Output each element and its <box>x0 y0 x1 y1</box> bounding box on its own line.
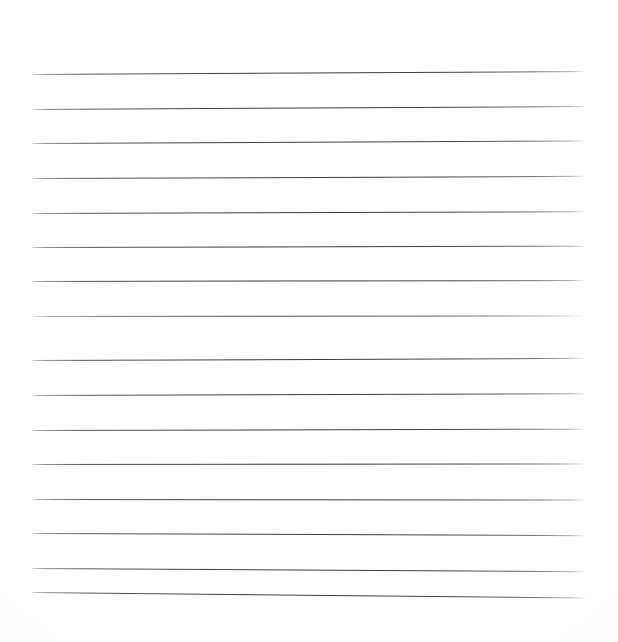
rule-line-ink <box>31 463 585 465</box>
rule-line <box>31 140 585 143</box>
rule-line <box>31 393 585 395</box>
rule-line <box>31 246 585 247</box>
writing-area[interactable] <box>0 0 618 642</box>
rule-line <box>31 71 585 74</box>
rule-line-ink <box>31 246 585 248</box>
rule-line <box>31 176 585 178</box>
rule-line <box>31 280 585 281</box>
rule-line-ink <box>31 315 585 317</box>
rule-line <box>31 106 585 109</box>
rule-line <box>31 533 585 535</box>
rule-line <box>31 358 585 360</box>
rule-line <box>31 315 585 316</box>
lined-paper-page <box>0 0 618 642</box>
rule-line-ink <box>31 140 585 144</box>
rule-line-ink <box>31 358 585 361</box>
rule-line-ink <box>31 71 585 75</box>
rule-line-ink <box>31 429 585 431</box>
rule-line <box>31 592 585 597</box>
rule-line <box>31 568 585 571</box>
rule-line <box>31 429 585 430</box>
rule-line-ink <box>31 533 585 536</box>
rule-line-ink <box>31 592 585 598</box>
paper-sheet <box>0 0 618 642</box>
rule-line-ink <box>31 211 585 214</box>
rule-line-ink <box>31 393 585 396</box>
rule-line-ink <box>31 106 585 110</box>
rule-line-ink <box>31 280 585 282</box>
rule-line-ink <box>31 568 585 572</box>
rule-line <box>31 463 585 464</box>
rule-line-ink <box>31 499 585 501</box>
rule-line-ink <box>31 176 585 179</box>
rule-line <box>31 211 585 213</box>
rule-line <box>31 499 585 500</box>
